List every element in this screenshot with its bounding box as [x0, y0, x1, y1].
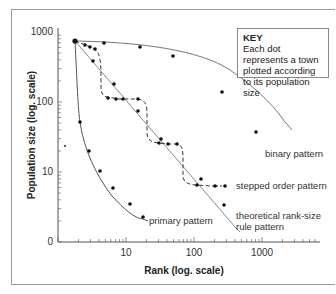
- stepped-order-label: stepped order pattern: [236, 180, 327, 191]
- rank-size-rule-line: [75, 41, 236, 228]
- stepped-order-curve: [75, 41, 212, 186]
- legend-title: KEY: [243, 32, 323, 43]
- data-points: [64, 38, 258, 218]
- rank-size-label-line2: rule pattern: [236, 221, 284, 232]
- binary-leader: [285, 122, 292, 130]
- x-tick-label: 10: [120, 247, 132, 258]
- y-tick-label: 100: [36, 96, 53, 107]
- legend-text: Each dot represents a town plotted accor…: [243, 43, 323, 98]
- rank-size-label-line1: theoretical rank-size: [236, 210, 321, 221]
- primary-pattern-curve: [75, 41, 143, 219]
- legend-key: KEY Each dot represents a town plotted a…: [237, 28, 329, 78]
- primary-pattern-label: primary pattern: [149, 215, 213, 226]
- x-axis-ticks: [58, 237, 315, 242]
- x-tick-label: 100: [186, 247, 203, 258]
- y-tick-label: 10: [42, 166, 54, 177]
- y-tick-label: 0: [47, 236, 53, 247]
- y-tick-label: 1000: [31, 26, 54, 37]
- binary-pattern-label: binary pattern: [265, 148, 323, 159]
- y-axis-ticks: [58, 35, 62, 242]
- x-axis-title: Rank (log. scale): [144, 265, 223, 276]
- y-axis-title: Population size (log. scale): [26, 71, 37, 199]
- primary-leader: [143, 219, 148, 221]
- x-tick-label: 1000: [251, 247, 274, 258]
